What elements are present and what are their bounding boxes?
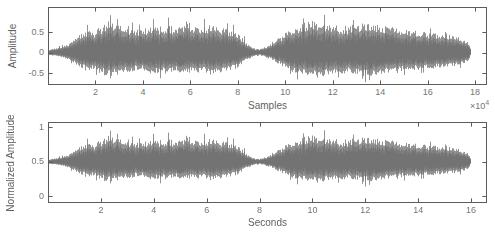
waveform-canvas: [48, 122, 487, 203]
x-axis-label: Seconds: [48, 217, 487, 228]
y-tick-label: 0: [6, 191, 44, 202]
x-tick-label: 4: [134, 205, 174, 216]
plot-area: [48, 122, 487, 203]
x-tick-label: 2: [81, 205, 121, 216]
y-tick-label: 1: [6, 122, 44, 133]
x-tick-label: 8: [240, 205, 280, 216]
x-tick-label: 12: [345, 205, 385, 216]
x-tick-label: 6: [187, 205, 227, 216]
x-tick-label: 14: [398, 205, 438, 216]
waveform-figure: Amplitude Samples ×104 246810121416180.5…: [0, 0, 495, 236]
x-tick-label: 16: [451, 205, 491, 216]
plot-normalized-amplitude-vs-seconds: Normalized Amplitude Seconds 24681012141…: [0, 0, 495, 236]
y-tick-label: 0.5: [6, 156, 44, 167]
x-tick-label: 10: [292, 205, 332, 216]
